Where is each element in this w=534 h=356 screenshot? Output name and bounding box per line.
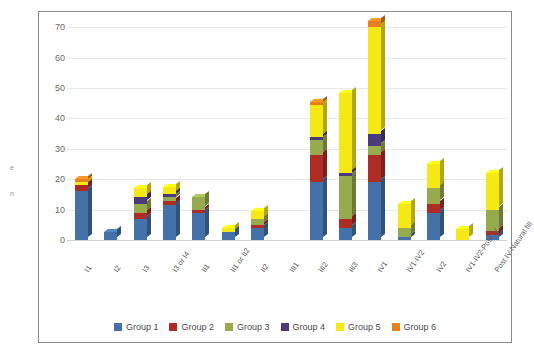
x-axis-label: I3 — [141, 264, 152, 274]
legend-item[interactable]: Group 1 — [114, 322, 159, 332]
legend-item[interactable]: Group 3 — [225, 322, 270, 332]
x-label-slot: III3 — [331, 264, 360, 316]
bar-slot[interactable] — [331, 12, 360, 240]
y-axis-tick-labels: 010203040506070 — [39, 12, 65, 264]
bar-segment[interactable] — [456, 229, 469, 240]
x-label-slot: II1 — [184, 264, 213, 316]
bar-segment[interactable] — [251, 211, 264, 219]
y-axis-tick-40: 40 — [41, 113, 65, 123]
bar-segment[interactable] — [427, 188, 440, 203]
bar-segment[interactable] — [398, 204, 411, 228]
bar-segment[interactable] — [222, 232, 235, 240]
bar-segment[interactable] — [134, 188, 147, 197]
legend-item[interactable]: Group 4 — [281, 322, 326, 332]
stacked-bar[interactable] — [192, 197, 205, 240]
bar-slot[interactable] — [478, 12, 507, 240]
bar-slot[interactable] — [214, 12, 243, 240]
bar-segment[interactable] — [368, 27, 381, 133]
x-label-slot: Post IV-Natural fill — [478, 264, 507, 316]
bar-segment[interactable] — [163, 187, 176, 195]
bar-slot[interactable] — [390, 12, 419, 240]
bar-segment[interactable] — [398, 237, 411, 240]
bar-slot[interactable] — [184, 12, 213, 240]
plot-area: 010203040506070 I1I2I3I3 or I4II1II1 or … — [39, 12, 513, 264]
legend-label: Group 1 — [126, 322, 159, 332]
bar-segment[interactable] — [339, 93, 352, 174]
x-label-slot: I1 — [67, 264, 96, 316]
y-axis-tick-70: 70 — [41, 22, 65, 32]
legend-label: Group 3 — [237, 322, 270, 332]
cropped-axis-title-text: e n — [0, 155, 14, 235]
stacked-bar[interactable] — [104, 232, 117, 240]
stacked-bar[interactable] — [163, 187, 176, 240]
bar-segment[interactable] — [427, 204, 440, 213]
x-label-slot: III1 — [272, 264, 301, 316]
edge-text-fragment-1: e — [0, 155, 14, 181]
bar-segment[interactable] — [486, 173, 499, 209]
bar-segment[interactable] — [368, 182, 381, 240]
bar-segment[interactable] — [427, 164, 440, 188]
x-label-slot: II1 or II2 — [214, 264, 243, 316]
bar-slot[interactable] — [448, 12, 477, 240]
bar-segment[interactable] — [310, 155, 323, 182]
bar-segment[interactable] — [192, 197, 205, 209]
stacked-bar[interactable] — [339, 93, 352, 240]
stacked-bar[interactable] — [427, 164, 440, 240]
bar-slot[interactable] — [126, 12, 155, 240]
x-label-slot: I2 — [96, 264, 125, 316]
bar-segment[interactable] — [192, 213, 205, 240]
bar-segment[interactable] — [163, 205, 176, 240]
x-label-slot: IV1-IV2-Post IV — [448, 264, 477, 316]
bar-segment[interactable] — [134, 204, 147, 213]
bar-segment[interactable] — [427, 213, 440, 240]
legend-swatch — [225, 323, 233, 331]
legend-swatch — [169, 323, 177, 331]
plot-canvas — [67, 12, 507, 264]
bar-slot[interactable] — [272, 12, 301, 240]
bar-slot[interactable] — [302, 12, 331, 240]
legend-item[interactable]: Group 2 — [169, 322, 214, 332]
bar-slot[interactable] — [419, 12, 448, 240]
stacked-bar[interactable] — [134, 188, 147, 240]
y-axis-tick-0: 0 — [41, 235, 65, 245]
legend-label: Group 5 — [348, 322, 381, 332]
x-axis-label: I2 — [111, 264, 122, 274]
stacked-bar[interactable] — [456, 229, 469, 240]
bar-segment[interactable] — [339, 228, 352, 240]
edge-text-fragment-2: n — [0, 181, 14, 207]
bar-segment[interactable] — [251, 228, 264, 240]
bar-segment[interactable] — [310, 140, 323, 155]
x-axis-label: II1 — [199, 262, 211, 274]
bar-segment[interactable] — [310, 182, 323, 240]
stacked-bar[interactable] — [368, 21, 381, 240]
x-label-slot: I3 — [126, 264, 155, 316]
bar-slot[interactable] — [155, 12, 184, 240]
stacked-bar[interactable] — [251, 211, 264, 240]
x-axis-label: I1 — [82, 264, 93, 274]
legend-item[interactable]: Group 5 — [336, 322, 381, 332]
bar-segment[interactable] — [310, 105, 323, 137]
stacked-bar[interactable] — [222, 228, 235, 240]
bar-segment[interactable] — [75, 191, 88, 240]
bar-group-container — [67, 12, 507, 240]
bar-slot[interactable] — [67, 12, 96, 240]
bar-segment[interactable] — [104, 232, 117, 240]
stacked-bar[interactable] — [75, 179, 88, 240]
bar-segment[interactable] — [368, 134, 381, 146]
bar-segment[interactable] — [339, 219, 352, 228]
y-axis-tick-50: 50 — [41, 83, 65, 93]
bar-segment[interactable] — [134, 219, 147, 240]
legend-item[interactable]: Group 6 — [392, 322, 437, 332]
stacked-bar[interactable] — [398, 204, 411, 240]
stacked-bar[interactable] — [310, 102, 323, 240]
bar-slot[interactable] — [243, 12, 272, 240]
bar-segment[interactable] — [368, 146, 381, 155]
bar-slot[interactable] — [96, 12, 125, 240]
bar-segment[interactable] — [339, 176, 352, 219]
x-axis-label: II2 — [258, 262, 270, 274]
bar-segment[interactable] — [398, 228, 411, 237]
bar-segment[interactable] — [368, 155, 381, 182]
x-axis-tick-labels: I1I2I3I3 or I4II1II1 or II2II2III1III2II… — [67, 264, 507, 316]
bar-slot[interactable] — [360, 12, 389, 240]
